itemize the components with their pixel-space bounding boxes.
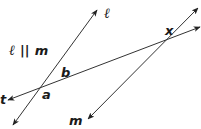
parallel-statement: ℓ || m [9,43,48,57]
diagram-lines [0,0,201,129]
statement-l: ℓ [9,42,15,58]
diagram-canvas: ℓ ℓ || m b a t m x [0,0,201,129]
label-angle-b: b [61,66,70,79]
label-line-t: t [0,93,6,106]
statement-m: m [35,43,49,58]
label-angle-a: a [42,88,51,101]
label-line-l: ℓ [104,6,110,20]
line-l [13,10,97,125]
label-angle-x: x [165,24,173,37]
label-line-m: m [69,114,83,127]
parallel-symbol: || [20,43,30,58]
